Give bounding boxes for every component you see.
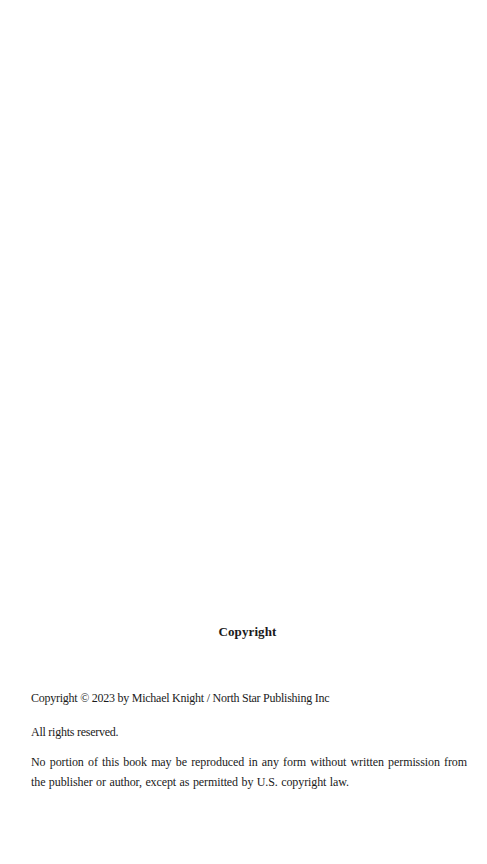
- reproduction-notice: No portion of this book may be reproduce…: [31, 752, 467, 792]
- page-heading: Copyright: [0, 624, 487, 640]
- book-page: Copyright Copyright © 2023 by Michael Kn…: [0, 0, 487, 864]
- copyright-notice: Copyright © 2023 by Michael Knight / Nor…: [31, 688, 467, 708]
- rights-reserved: All rights reserved.: [31, 722, 467, 742]
